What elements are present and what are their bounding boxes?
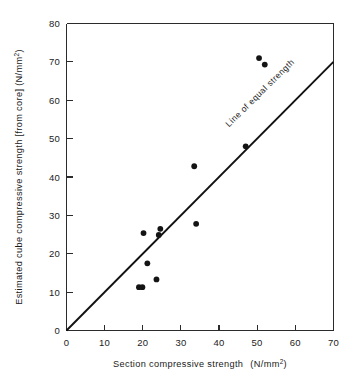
data-point: [262, 62, 268, 68]
plot-frame: [67, 24, 334, 331]
data-point: [191, 163, 197, 169]
y-tick-label: 60: [49, 95, 60, 106]
line-of-equal-strength: [67, 62, 334, 331]
y-axis-title-main: Estimated cube compressive strength [fro…: [14, 57, 24, 305]
y-axis-ticks: [67, 24, 73, 331]
data-point: [156, 232, 162, 238]
plot-border: [67, 24, 334, 331]
y-tick-label: 10: [49, 287, 60, 298]
y-axis-title: Estimated cube compressive strength [fro…: [13, 49, 24, 305]
y-tick-label: 20: [49, 248, 60, 259]
data-points: [136, 55, 268, 290]
figure-container: 0 10 20 30 40 50 60 70 80 0 10 20 30 40 …: [0, 0, 349, 378]
data-point: [256, 55, 262, 61]
x-axis-title-main: Section compressive strength: [113, 359, 243, 369]
y-tick-label: 0: [55, 325, 60, 336]
data-point: [139, 284, 145, 290]
x-tick-label: 50: [252, 337, 263, 348]
equal-strength-annotation: Line of equal strength: [223, 57, 296, 129]
x-tick-label: 20: [137, 337, 148, 348]
x-tick-label: 40: [214, 337, 225, 348]
x-axis-units-prefix: (N/mm: [250, 359, 279, 369]
y-tick-labels: 0 10 20 30 40 50 60 70 80: [49, 18, 60, 336]
x-axis-ticks: [67, 325, 334, 331]
scatter-plot: 0 10 20 30 40 50 60 70 80 0 10 20 30 40 …: [0, 0, 349, 378]
y-tick-label: 80: [49, 18, 60, 29]
x-axis-title: Section compressive strength(N/mm2): [113, 358, 287, 369]
x-tick-label: 10: [99, 337, 110, 348]
data-point: [243, 143, 249, 149]
axis-lines: [67, 24, 334, 331]
x-axis-units-suffix: ): [284, 359, 287, 369]
equal-strength-label: Line of equal strength: [223, 57, 296, 129]
data-point: [141, 230, 147, 236]
data-point: [154, 277, 160, 283]
y-tick-label: 70: [49, 56, 60, 67]
data-point: [157, 226, 163, 232]
y-axis-units-suffix: ): [14, 49, 24, 52]
x-tick-labels: 0 10 20 30 40 50 60 70: [64, 337, 339, 348]
x-tick-label: 70: [328, 337, 339, 348]
data-point: [144, 260, 150, 266]
y-tick-label: 40: [49, 172, 60, 183]
x-tick-label: 30: [175, 337, 186, 348]
x-tick-label: 60: [290, 337, 301, 348]
y-tick-label: 30: [49, 210, 60, 221]
x-tick-label: 0: [64, 337, 69, 348]
y-tick-label: 50: [49, 133, 60, 144]
data-point: [193, 221, 199, 227]
